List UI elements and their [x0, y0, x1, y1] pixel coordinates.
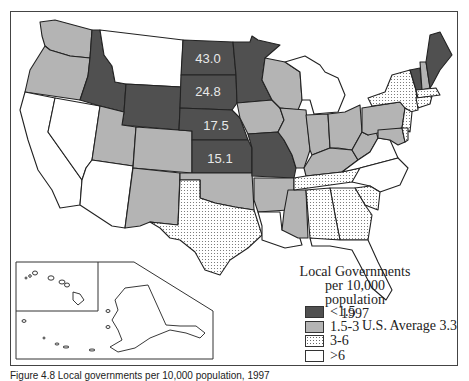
legend-item-dotted: 3-6 — [305, 333, 349, 348]
legend-item-white: >6 — [305, 348, 345, 363]
inset-alaska-hawaii — [16, 262, 213, 359]
legend-item-dark: <1.5 — [305, 304, 355, 319]
legend-title-line1: Local Governments — [296, 265, 414, 279]
legend-swatch-white — [305, 350, 324, 362]
state-new-mexico — [125, 168, 180, 228]
state-maine — [426, 32, 452, 88]
state-arizona — [80, 160, 133, 228]
state-wyoming — [122, 84, 181, 130]
legend-swatch-dotted — [305, 335, 324, 347]
legend-label: >6 — [330, 348, 345, 364]
figure-caption: Figure 4.8 Local governments per 10,000 … — [10, 370, 270, 381]
legend-swatch-light — [305, 321, 324, 333]
state-connecticut-rhode-island — [416, 96, 432, 108]
label-kansas: 15.1 — [207, 151, 232, 166]
us-average-note: U.S. Average 3.3 — [362, 318, 457, 334]
label-nebraska: 17.5 — [203, 118, 228, 133]
label-south-dakota: 24.8 — [195, 84, 220, 99]
legend-label: <1.5 — [330, 304, 355, 320]
legend-label: 3-6 — [330, 333, 349, 349]
label-north-dakota: 43.0 — [195, 51, 220, 66]
state-colorado — [133, 127, 192, 173]
legend-swatch-dark — [305, 306, 324, 318]
